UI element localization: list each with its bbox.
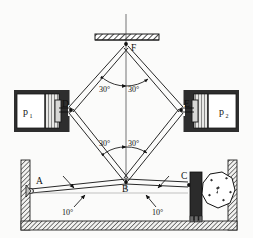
ground-hatch-support [95,34,159,40]
hydraulic-cylinder-left: p 1 [14,90,71,132]
angle-label-lower-right: 30° [128,139,139,148]
point-label-E: E [184,99,190,109]
angle-label-upper-right: 30° [128,85,139,94]
diagram-canvas: p 1 p 2 [0,0,253,238]
point-label-F: F [131,43,136,53]
rock-being-crushed [202,172,235,208]
pressure-label-p2-base: p [219,106,224,117]
rock-crusher-mechanism-figure: p 1 p 2 [0,0,253,238]
point-label-C: C [181,171,187,181]
pin-F [124,42,128,46]
angle-label-upper-left: 30° [99,85,110,94]
pin-D [69,108,73,112]
point-label-A: A [36,176,43,186]
pin-E [179,108,183,112]
crusher-jaw-block [190,172,202,222]
pressure-label-p2-subscript: 2 [226,113,229,119]
pressure-label-p1-subscript: 1 [30,113,33,119]
angle-label-left-lever: 10° [62,208,73,217]
pressure-label-p1-base: p [23,106,28,117]
point-label-B: B [122,184,128,194]
angle-label-right-lever: 10° [152,208,163,217]
point-label-D: D [62,99,69,109]
hydraulic-cylinder-right: p 2 [181,90,239,132]
angle-label-lower-left: 30° [99,139,110,148]
